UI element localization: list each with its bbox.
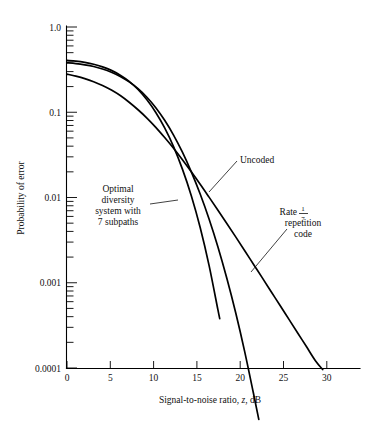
y-tick-label-1: 1.0 [49,23,61,33]
annotation-optimal-line1: Optimal [102,184,133,194]
annotation-leaders [150,161,287,272]
y-tick-label-3: 0.01 [44,193,61,203]
annotation-optimal-line4: 7 subpaths [98,217,139,227]
x-tick-label-25: 25 [279,373,289,383]
x-tick-label-20: 20 [235,373,245,383]
probability-of-error-chart: 1.0 0.1 0.01 0.001 0.0001 0 5 10 15 20 2… [0,0,379,422]
y-tick-label-4: 0.001 [40,278,62,288]
x-tick-label-15: 15 [192,373,202,383]
x-tick-label-0: 0 [65,373,70,383]
x-axis-tick-labels: 0 5 10 15 20 25 30 [65,373,332,383]
annotation-rate-numerator: 1 [301,205,305,213]
annotation-optimal-line3: system with [95,206,141,216]
annotation-optimal-diversity: Optimal diversity system with 7 subpaths [95,184,141,227]
annotation-optimal-line2: diversity [101,195,134,205]
x-tick-label-30: 30 [322,373,332,383]
curve-rate-repetition-code [67,63,259,420]
x-axis-title: Signal-to-noise ratio, z, dB [159,395,261,405]
curve-optimal-diversity [67,60,220,318]
annotation-uncoded: Uncoded [240,155,275,165]
annotation-rate-prefix: Rate [280,207,297,217]
leader-line-rate-rep [251,229,287,272]
y-tick-label-5: 0.0001 [35,364,61,374]
x-axis-title-before: Signal-to-noise ratio, [159,395,242,405]
y-axis-tick-labels: 1.0 0.1 0.01 0.001 0.0001 [35,23,61,374]
x-tick-label-5: 5 [108,373,113,383]
annotation-rate-line3: code [294,229,312,239]
annotation-rate-line1: Rate [280,207,297,217]
data-curves [67,60,323,419]
annotation-rate-line2: repetition [285,218,322,228]
x-tick-label-10: 10 [149,373,159,383]
y-tick-label-2: 0.1 [49,108,61,118]
leader-line-uncoded [209,161,237,192]
x-axis-title-after: , dB [245,395,261,405]
annotation-rate-repetition-code: Rate 1 7 repetition code [280,205,322,239]
y-axis-minor-ticks [67,31,74,342]
y-axis-title: Probability of error [16,160,26,234]
x-axis-ticks [67,361,327,369]
leader-line-optimal-div [150,200,178,204]
figure-container: 1.0 0.1 0.01 0.001 0.0001 0 5 10 15 20 2… [0,0,379,422]
